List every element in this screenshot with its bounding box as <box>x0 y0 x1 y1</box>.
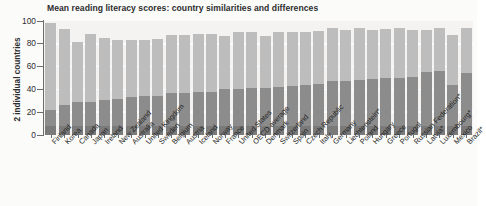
bar-segment-foot <box>112 126 123 135</box>
bar-segment-foot <box>72 126 83 135</box>
bar-column <box>313 21 324 135</box>
bar-column <box>126 21 137 135</box>
bar-segment-foot <box>179 126 190 135</box>
x-tick <box>359 135 360 138</box>
bar-segment-foot <box>327 126 338 135</box>
x-tick <box>91 135 92 138</box>
bar-column <box>394 21 405 135</box>
bar-segment-upper <box>273 32 284 87</box>
bar-column <box>300 21 311 135</box>
bar-segment-foot <box>434 126 445 135</box>
x-tick <box>372 135 373 138</box>
bar-segment-upper <box>126 40 137 97</box>
bar-column <box>327 21 338 135</box>
y-axis-label: 2 individual countries <box>13 24 22 136</box>
bar-segment-foot <box>367 126 378 135</box>
bar-segment-upper <box>166 35 177 93</box>
bar-segment-foot <box>407 126 418 135</box>
bar-segment-upper <box>421 30 432 72</box>
plot-area <box>44 21 473 135</box>
y-tick-100 <box>37 21 43 22</box>
bar-segment-upper <box>354 28 365 80</box>
bar-segment-upper <box>260 36 271 88</box>
bar-segment-foot <box>126 126 137 135</box>
bar-column <box>59 21 70 135</box>
bar-column <box>340 21 351 135</box>
bar-column <box>179 21 190 135</box>
bar-segment-foot <box>233 126 244 135</box>
bar-segment-upper <box>112 40 123 98</box>
x-tick <box>238 135 239 138</box>
bar-segment-upper <box>99 38 110 100</box>
bar-segment-foot <box>85 126 96 135</box>
bar-column <box>260 21 271 135</box>
bar-column <box>367 21 378 135</box>
x-tick <box>185 135 186 138</box>
bar-column <box>421 21 432 135</box>
y-tick-label-0: 0 <box>31 131 36 139</box>
x-tick <box>399 135 400 138</box>
bar-column <box>72 21 83 135</box>
y-tick-60 <box>37 66 43 67</box>
x-tick <box>145 135 146 138</box>
bar-column <box>219 21 230 135</box>
x-tick <box>346 135 347 138</box>
bar-segment-upper <box>340 30 351 81</box>
bar-segment-upper <box>193 34 204 92</box>
bar-column <box>407 21 418 135</box>
bar-segment-foot <box>139 126 150 135</box>
y-tick-label-20: 20 <box>27 108 36 116</box>
y-tick-80 <box>37 43 43 44</box>
bar-segment-upper <box>152 39 163 96</box>
bar-segment-upper <box>407 30 418 77</box>
bar-segment-foot <box>354 126 365 135</box>
x-tick <box>439 135 440 138</box>
bar-column <box>112 21 123 135</box>
bar-column <box>273 21 284 135</box>
bar-column <box>354 21 365 135</box>
chart-title: Mean reading literacy scores: country si… <box>47 3 318 13</box>
bar-segment-upper <box>447 35 458 85</box>
x-tick <box>51 135 52 138</box>
x-tick <box>332 135 333 138</box>
bar-segment-foot <box>300 126 311 135</box>
bar-segment-upper <box>246 32 257 88</box>
bar-segment-foot <box>99 126 110 135</box>
x-tick <box>279 135 280 138</box>
x-tick <box>104 135 105 138</box>
x-tick <box>265 135 266 138</box>
x-tick <box>252 135 253 138</box>
bar-segment-foot <box>219 126 230 135</box>
x-tick <box>426 135 427 138</box>
bar-segment-upper <box>300 32 311 84</box>
x-tick <box>305 135 306 138</box>
y-tick-label-80: 80 <box>27 39 36 47</box>
bar-column <box>193 21 204 135</box>
x-tick <box>225 135 226 138</box>
bar-segment-foot <box>152 126 163 135</box>
bar-segment-foot <box>421 126 432 135</box>
bar-segment-upper <box>179 35 190 93</box>
bar-column <box>447 21 458 135</box>
bar-segment-upper <box>219 36 230 90</box>
bar-segment-upper <box>233 32 244 89</box>
x-tick <box>198 135 199 138</box>
x-tick <box>453 135 454 138</box>
bar-segment-foot <box>461 126 472 135</box>
bar-column <box>85 21 96 135</box>
y-tick-0 <box>37 135 43 136</box>
bar-segment-upper <box>59 29 70 105</box>
bar-segment-foot <box>380 126 391 135</box>
x-tick <box>78 135 79 138</box>
bar-segment-foot <box>394 126 405 135</box>
bar-column <box>434 21 445 135</box>
y-tick-20 <box>37 112 43 113</box>
bar-segment-foot <box>273 126 284 135</box>
bar-segment-foot <box>45 126 56 135</box>
bar-segment-upper <box>287 32 298 86</box>
bar-segment-foot <box>193 126 204 135</box>
bar-segment-upper <box>206 34 217 92</box>
y-tick-label-60: 60 <box>27 62 36 70</box>
bar-column <box>233 21 244 135</box>
